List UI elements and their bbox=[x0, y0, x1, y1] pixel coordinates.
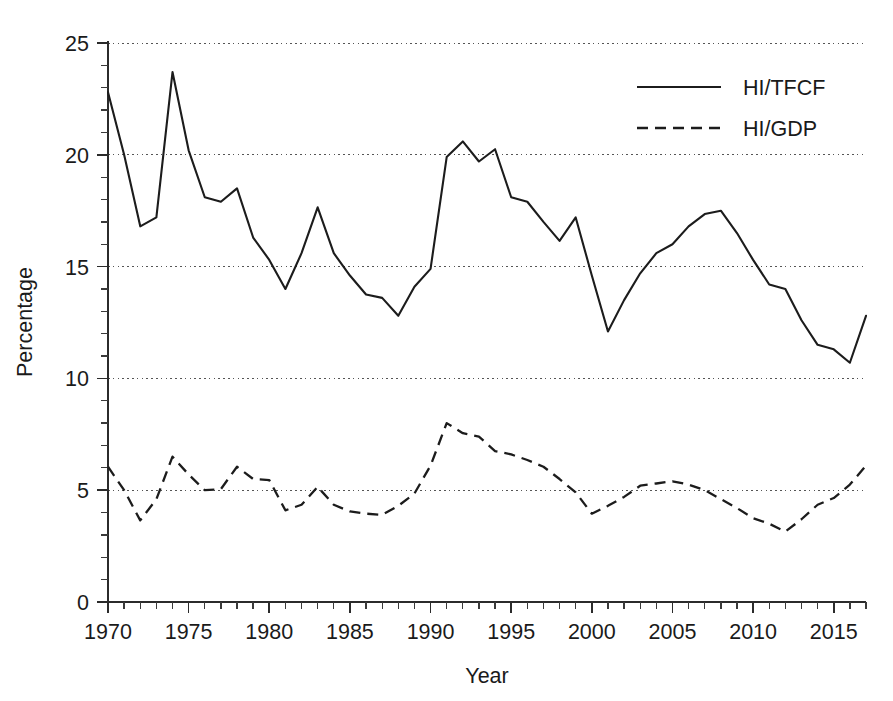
y-tick-label-5: 5 bbox=[77, 479, 89, 503]
gridlines bbox=[108, 43, 866, 490]
legend-label-hi-gdp: HI/GDP bbox=[743, 117, 817, 141]
x-tick-label-1980: 1980 bbox=[245, 620, 293, 644]
legend-label-hi-tfcf: HI/TFCF bbox=[743, 76, 825, 100]
y-axis-title: Percentage bbox=[13, 267, 37, 377]
x-tick-label-2010: 2010 bbox=[729, 620, 777, 644]
x-tick-label-2015: 2015 bbox=[810, 620, 858, 644]
series-line-hi-tfcf bbox=[108, 72, 866, 363]
x-tick-label-2005: 2005 bbox=[649, 620, 697, 644]
x-tick-label-1970: 1970 bbox=[84, 620, 132, 644]
y-tick-label-10: 10 bbox=[65, 367, 89, 391]
x-tick-label-1975: 1975 bbox=[165, 620, 213, 644]
x-tick-label-1995: 1995 bbox=[487, 620, 535, 644]
x-axis-title: Year bbox=[465, 664, 508, 688]
chart-container: 0510152025197019751980198519901995200020… bbox=[0, 0, 893, 701]
y-tick-label-25: 25 bbox=[65, 32, 89, 56]
x-tick-label-1990: 1990 bbox=[407, 620, 455, 644]
y-tick-label-20: 20 bbox=[65, 144, 89, 168]
y-tick-label-0: 0 bbox=[77, 591, 89, 615]
line-chart: 0510152025197019751980198519901995200020… bbox=[0, 0, 893, 701]
x-tick-label-2000: 2000 bbox=[568, 620, 616, 644]
y-tick-label-15: 15 bbox=[65, 256, 89, 280]
series-line-hi-gdp bbox=[108, 423, 866, 531]
legend: HI/TFCFHI/GDP bbox=[637, 76, 825, 141]
x-tick-label-1985: 1985 bbox=[326, 620, 374, 644]
